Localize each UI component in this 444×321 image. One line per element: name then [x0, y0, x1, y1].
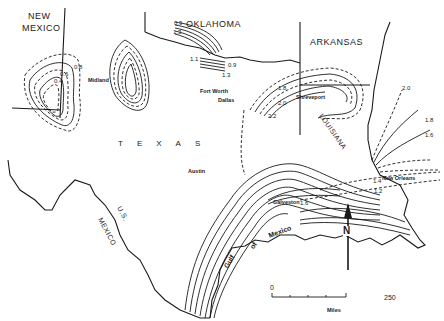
contour-label: 0.8: [74, 64, 82, 70]
north-label: N: [343, 226, 350, 236]
contour-label: 1.3: [222, 72, 230, 78]
contour-label: 0.9: [228, 62, 236, 68]
contour-label: 1.6: [300, 200, 308, 206]
contour-label: 0.6: [60, 71, 68, 77]
label-oklahoma: OKLAHOMA: [186, 20, 241, 29]
contour-label: 1.8: [425, 117, 433, 123]
contour-label: 1.3: [173, 29, 181, 35]
city-fort-worth: Fort Worth: [200, 89, 228, 95]
city-dallas: Dallas: [218, 98, 234, 104]
contour-label: 2.0: [278, 100, 286, 106]
scale-bar: [272, 293, 346, 297]
contour-label: 1.6: [425, 132, 433, 138]
map-canvas: [0, 0, 444, 321]
contours-louisiana: [241, 68, 363, 175]
contour-label: 0.4: [54, 78, 62, 84]
city-galveston: Galveston: [273, 200, 300, 206]
city-austin: Austin: [188, 169, 205, 175]
north-arrow-icon: [344, 203, 352, 270]
contours-west-texas: [110, 40, 149, 110]
city-shreveport: Shreveport: [296, 95, 325, 101]
contour-label: 1.8: [278, 85, 286, 91]
contours-east: [300, 90, 440, 200]
contour-label: 2.0: [402, 85, 410, 91]
scale-end-label: 250: [384, 294, 396, 301]
scale-start-label: 0: [270, 284, 274, 291]
city-new-orleans: New Orleans: [382, 176, 415, 182]
contour-label: 1.1: [190, 56, 198, 62]
label-texas: TEXAS: [118, 140, 214, 148]
contours-new-mexico: [24, 54, 80, 131]
label-arkansas: ARKANSAS: [310, 38, 363, 47]
contours-oklahoma: [175, 22, 225, 71]
contour-label: 1.4: [373, 178, 381, 184]
contour-label: 1.2: [374, 188, 382, 194]
contour-label: 0.9: [174, 20, 182, 26]
contour-label: 2.2: [268, 113, 276, 119]
scale-unit-label: Miles: [327, 308, 341, 314]
label-new-mexico-2: MEXICO: [22, 24, 61, 33]
contours-coastal-texas: [185, 164, 410, 318]
city-midland: Midland: [88, 78, 109, 84]
label-new-mexico-1: NEW: [28, 12, 51, 21]
